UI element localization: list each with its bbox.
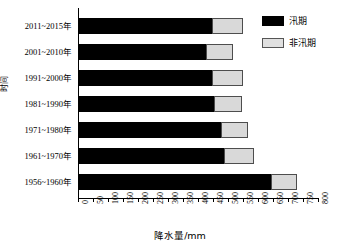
x-axis-tick <box>213 198 214 202</box>
bar-segment-nonflood <box>212 70 243 86</box>
bar-segment-flood <box>78 70 213 86</box>
bar-segment-flood <box>78 122 222 138</box>
x-axis-tick <box>228 198 229 202</box>
bar-row <box>78 44 233 60</box>
bar-segment-flood <box>78 174 272 190</box>
bar-row <box>78 96 242 112</box>
y-axis-tick-label: 2011~2015年 <box>25 21 72 31</box>
x-axis-tick-label: 150 <box>126 192 135 204</box>
x-axis-tick-label: 450 <box>216 192 225 204</box>
legend-item-flood[interactable]: 汛期 <box>262 14 316 27</box>
x-axis-tick <box>243 198 244 202</box>
x-axis-tick-label: 50 <box>96 196 105 204</box>
legend: 汛期 非汛期 <box>262 14 316 58</box>
x-axis-tick-label: 200 <box>141 192 150 204</box>
x-axis-tick <box>123 198 124 202</box>
bar-row <box>78 70 243 86</box>
y-axis-tick-labels: 2011~2015年2001~2010年1991~2000年1981~1990年… <box>0 0 76 246</box>
x-axis-tick-label: 600 <box>261 192 270 204</box>
x-axis-tick-label: 650 <box>276 192 285 204</box>
bar-segment-flood <box>78 44 207 60</box>
x-axis-tick <box>108 198 109 202</box>
x-axis-tick-label: 400 <box>201 192 210 204</box>
x-axis-tick <box>318 198 319 202</box>
x-axis-tick <box>273 198 274 202</box>
x-axis-tick <box>153 198 154 202</box>
x-axis-tick <box>258 198 259 202</box>
legend-label-nonflood: 非汛期 <box>289 36 316 49</box>
y-axis-tick-label: 1981~1990年 <box>24 99 72 109</box>
bar-row <box>78 148 254 164</box>
bar-segment-nonflood <box>224 148 254 164</box>
x-axis-tick <box>288 198 289 202</box>
bar-segment-flood <box>78 18 213 34</box>
non-flood-season-swatch-icon <box>262 38 284 48</box>
bar-row <box>78 18 243 34</box>
y-axis-tick-label: 2001~2010年 <box>24 47 72 57</box>
bar-row <box>78 174 297 190</box>
x-axis-title: 降水量/mm <box>0 228 360 242</box>
x-axis-tick-label: 100 <box>111 192 120 204</box>
x-axis-tick-label: 550 <box>246 192 255 204</box>
x-axis-tick-label: 350 <box>186 192 195 204</box>
x-axis-tick-label: 800 <box>321 192 330 204</box>
bar-segment-nonflood <box>271 174 298 190</box>
x-axis-tick <box>138 198 139 202</box>
bar-segment-nonflood <box>206 44 233 60</box>
x-axis-tick <box>78 198 79 202</box>
x-axis-tick-label: 750 <box>306 192 315 204</box>
x-axis-tick <box>183 198 184 202</box>
legend-item-nonflood[interactable]: 非汛期 <box>262 36 316 49</box>
legend-label-flood: 汛期 <box>289 14 307 27</box>
x-axis-tick-label: 0 <box>81 200 90 204</box>
x-axis-tick-label: 300 <box>171 192 180 204</box>
x-axis-tick <box>198 198 199 202</box>
y-axis-tick-label: 1956~1960年 <box>24 177 72 187</box>
x-axis-tick-label: 500 <box>231 192 240 204</box>
x-axis-tick <box>303 198 304 202</box>
bar-segment-nonflood <box>214 96 242 112</box>
y-axis-tick-label: 1971~1980年 <box>24 125 72 135</box>
precipitation-stacked-bar-chart: 时间 2011~2015年2001~2010年1991~2000年1981~19… <box>0 0 360 246</box>
y-axis-tick-label: 1991~2000年 <box>24 73 72 83</box>
bar-segment-flood <box>78 96 215 112</box>
y-axis-tick-label: 1961~1970年 <box>24 151 72 161</box>
x-axis-tick <box>93 198 94 202</box>
bar-segment-nonflood <box>221 122 248 138</box>
flood-season-swatch-icon <box>262 16 284 26</box>
x-axis-tick-label: 250 <box>156 192 165 204</box>
bar-segment-flood <box>78 148 225 164</box>
x-axis-tick <box>168 198 169 202</box>
bar-segment-nonflood <box>212 18 243 34</box>
bar-row <box>78 122 248 138</box>
x-axis-tick-label: 700 <box>291 192 300 204</box>
